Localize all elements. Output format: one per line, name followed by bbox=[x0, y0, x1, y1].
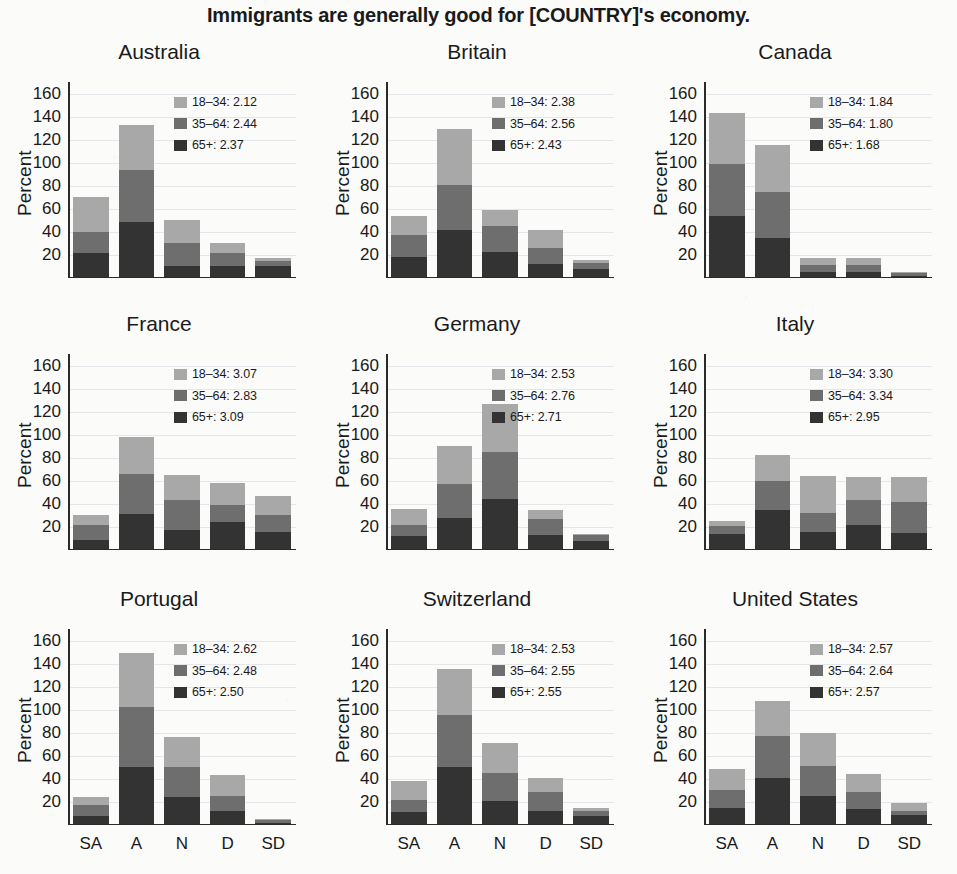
legend-item[interactable]: 35–64: 3.34 bbox=[810, 390, 893, 403]
legend-swatch-icon bbox=[492, 97, 505, 108]
legend-item[interactable]: 35–64: 2.44 bbox=[174, 118, 257, 131]
legend-item[interactable]: 65+: 2.57 bbox=[810, 686, 893, 699]
bar-d[interactable] bbox=[528, 230, 564, 278]
legend-item[interactable]: 65+: 2.55 bbox=[492, 686, 575, 699]
legend-item[interactable]: 35–64: 2.56 bbox=[492, 118, 575, 131]
legend: 18–34: 3.3035–64: 3.3465+: 2.95 bbox=[810, 368, 893, 433]
bar-segment bbox=[119, 437, 155, 474]
bar-d[interactable] bbox=[528, 778, 564, 825]
bar-a[interactable] bbox=[437, 129, 473, 278]
bar-sa[interactable] bbox=[709, 521, 745, 550]
bar-segment bbox=[437, 484, 473, 517]
bar-segment bbox=[437, 230, 473, 278]
y-axis bbox=[704, 82, 706, 278]
legend-item[interactable]: 35–64: 2.64 bbox=[810, 665, 893, 678]
legend-item[interactable]: 65+: 2.50 bbox=[174, 686, 257, 699]
bar-sa[interactable] bbox=[709, 113, 745, 278]
bar-segment bbox=[846, 477, 882, 500]
legend-item[interactable]: 65+: 2.37 bbox=[174, 139, 257, 152]
panel-italy: ItalyPercent2040608010012014016018–34: 3… bbox=[636, 312, 954, 574]
bar-d[interactable] bbox=[846, 258, 882, 278]
bar-segment bbox=[391, 525, 427, 537]
y-tick-label: 20 bbox=[678, 245, 704, 265]
bar-segment bbox=[528, 519, 564, 535]
bar-a[interactable] bbox=[119, 125, 155, 278]
legend-item[interactable]: 65+: 2.43 bbox=[492, 139, 575, 152]
legend-item[interactable]: 65+: 2.71 bbox=[492, 411, 575, 424]
legend-item[interactable]: 35–64: 2.83 bbox=[174, 390, 257, 403]
legend-item[interactable]: 65+: 2.95 bbox=[810, 411, 893, 424]
bar-sa[interactable] bbox=[391, 216, 427, 278]
bar-sa[interactable] bbox=[73, 797, 109, 825]
bar-n[interactable] bbox=[800, 258, 836, 278]
bar-sa[interactable] bbox=[73, 515, 109, 550]
bar-segment bbox=[482, 210, 518, 226]
legend-item[interactable]: 18–34: 2.53 bbox=[492, 368, 575, 381]
legend-item[interactable]: 18–34: 2.53 bbox=[492, 643, 575, 656]
bar-d[interactable] bbox=[210, 775, 246, 825]
bar-sa[interactable] bbox=[709, 769, 745, 825]
bar-d[interactable] bbox=[528, 510, 564, 550]
bar-d[interactable] bbox=[210, 483, 246, 550]
y-tick-label: 140 bbox=[669, 379, 704, 399]
bar-n[interactable] bbox=[800, 733, 836, 825]
bar-n[interactable] bbox=[164, 475, 200, 550]
bar-segment bbox=[755, 481, 791, 510]
bar-a[interactable] bbox=[755, 455, 791, 550]
legend-item[interactable]: 35–64: 2.48 bbox=[174, 665, 257, 678]
x-tick-label-sa: SA bbox=[79, 834, 102, 854]
bar-n[interactable] bbox=[164, 220, 200, 278]
legend-label: 65+: 2.43 bbox=[510, 139, 562, 152]
bar-d[interactable] bbox=[846, 477, 882, 550]
bar-sd[interactable] bbox=[573, 808, 609, 825]
bar-a[interactable] bbox=[755, 145, 791, 278]
bar-a[interactable] bbox=[119, 437, 155, 550]
gridline bbox=[704, 458, 932, 459]
bar-sd[interactable] bbox=[255, 496, 291, 550]
legend-item[interactable]: 65+: 3.09 bbox=[174, 411, 257, 424]
bar-a[interactable] bbox=[755, 700, 791, 825]
legend-item[interactable]: 18–34: 2.57 bbox=[810, 643, 893, 656]
bar-a[interactable] bbox=[437, 446, 473, 550]
bar-n[interactable] bbox=[482, 210, 518, 278]
legend-swatch-icon bbox=[810, 665, 823, 676]
panel-france: FrancePercent2040608010012014016018–34: … bbox=[0, 312, 318, 574]
bar-segment bbox=[119, 707, 155, 767]
legend-item[interactable]: 35–64: 2.55 bbox=[492, 665, 575, 678]
legend-item[interactable]: 35–64: 1.80 bbox=[810, 118, 893, 131]
bar-sd[interactable] bbox=[891, 477, 927, 550]
legend-item[interactable]: 35–64: 2.76 bbox=[492, 390, 575, 403]
legend-item[interactable]: 18–34: 2.62 bbox=[174, 643, 257, 656]
y-tick-label: 80 bbox=[678, 448, 704, 468]
legend-item[interactable]: 65+: 1.68 bbox=[810, 139, 893, 152]
bar-sa[interactable] bbox=[391, 509, 427, 551]
bar-sa[interactable] bbox=[391, 781, 427, 825]
legend-label: 18–34: 2.53 bbox=[510, 643, 575, 656]
bar-d[interactable] bbox=[210, 243, 246, 278]
legend-item[interactable]: 18–34: 1.84 bbox=[810, 96, 893, 109]
bar-sa[interactable] bbox=[73, 197, 109, 278]
bar-sd[interactable] bbox=[891, 803, 927, 825]
legend-item[interactable]: 18–34: 2.38 bbox=[492, 96, 575, 109]
bar-sd[interactable] bbox=[573, 260, 609, 278]
bar-segment bbox=[709, 769, 745, 791]
legend-item[interactable]: 18–34: 3.07 bbox=[174, 368, 257, 381]
bar-a[interactable] bbox=[119, 653, 155, 825]
legend-swatch-icon bbox=[492, 118, 505, 129]
bar-segment bbox=[73, 805, 109, 815]
panel-germany: GermanyPercent2040608010012014016018–34:… bbox=[318, 312, 636, 574]
y-tick-label: 100 bbox=[351, 153, 386, 173]
bar-n[interactable] bbox=[800, 476, 836, 550]
bar-d[interactable] bbox=[846, 774, 882, 825]
bar-sd[interactable] bbox=[255, 258, 291, 278]
bar-a[interactable] bbox=[437, 669, 473, 825]
x-tick-label-sd: SD bbox=[579, 834, 603, 854]
panel-title: Italy bbox=[636, 312, 954, 336]
legend-item[interactable]: 18–34: 3.30 bbox=[810, 368, 893, 381]
bar-n[interactable] bbox=[482, 743, 518, 825]
x-tick-label-sd: SD bbox=[897, 834, 921, 854]
bar-segment bbox=[800, 265, 836, 272]
bar-segment bbox=[437, 129, 473, 184]
legend-item[interactable]: 18–34: 2.12 bbox=[174, 96, 257, 109]
bar-n[interactable] bbox=[164, 737, 200, 825]
